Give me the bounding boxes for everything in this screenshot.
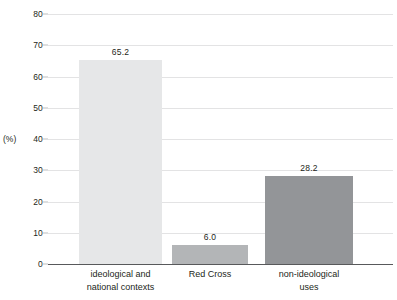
bar[interactable]: 28.2 (265, 176, 353, 264)
bar-value-label: 6.0 (204, 232, 216, 242)
gridline (48, 45, 393, 46)
bar[interactable]: 65.2 (79, 60, 162, 264)
y-axis-tick-label: 20 (0, 197, 48, 207)
y-axis-tick-label: 60 (0, 72, 48, 82)
bar-chart: (%) 01020304050607080 65.26.028.2 ideolo… (0, 0, 397, 300)
bar-value-label: 65.2 (112, 47, 129, 57)
gridline (48, 14, 393, 15)
y-axis-tick-label: 80 (0, 9, 48, 19)
y-axis-tick-label: 70 (0, 40, 48, 50)
x-axis-category-label: non-ideological uses (249, 268, 369, 293)
bar[interactable]: 6.0 (172, 245, 248, 264)
plot-area: 65.26.028.2 (48, 14, 393, 264)
y-axis-tick-label: 50 (0, 103, 48, 113)
y-axis-tick-label: 40 (0, 134, 48, 144)
y-axis-tick-label: 30 (0, 165, 48, 175)
y-axis-tick-label: 10 (0, 228, 48, 238)
axis-baseline (48, 264, 393, 265)
bar-value-label: 28.2 (300, 163, 317, 173)
y-axis-tick-label: 0 (0, 259, 48, 269)
